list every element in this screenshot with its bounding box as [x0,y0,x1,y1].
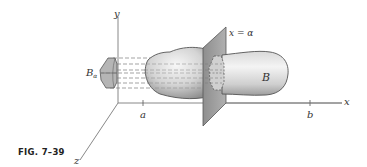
plane-label: x = α [229,29,253,38]
cross-section-label-subscript: α [93,72,97,79]
tick-b-label: b [307,110,313,120]
tick-a-label: a [140,110,146,120]
z-axis-label: z [74,156,79,166]
solid-label: B [262,72,270,83]
figure-caption: FIG. 7–39 [18,147,65,157]
solid-right-lobe [222,51,288,95]
y-axis-label: y [114,9,120,19]
figure-drawing [0,0,367,167]
cross-section-label: Bα [86,68,97,79]
z-axis [80,103,118,160]
x-axis-label: x [344,97,350,107]
solid-of-cross-sections-figure: y x z a b x = α B Bα FIG. 7–39 [0,0,367,167]
